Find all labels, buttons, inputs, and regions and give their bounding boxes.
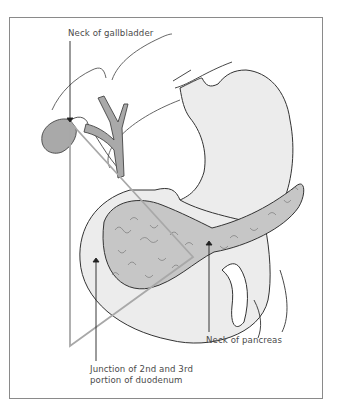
label-neck-of-gallbladder: Neck of gallbladder (68, 28, 153, 39)
label-duodenum-line2: portion of duodenum (90, 375, 193, 386)
label-duodenum-line1: Junction of 2nd and 3rd (90, 364, 193, 375)
label-neck-of-pancreas: Neck of pancreas (206, 335, 282, 346)
anatomy-figure: Neck of gallbladder Neck of pancreas Jun… (0, 0, 341, 406)
label-duodenum-junction: Junction of 2nd and 3rd portion of duode… (90, 364, 193, 386)
anatomy-drawing (0, 0, 341, 406)
common-bile-duct (84, 96, 128, 178)
